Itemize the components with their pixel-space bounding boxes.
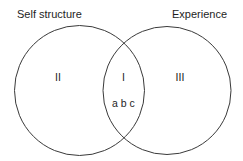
region-i-label: I [122, 71, 125, 83]
region-iii-label: III [176, 71, 185, 83]
experience-circle [103, 27, 231, 155]
overlap-items-label: a b c [112, 97, 135, 109]
self-structure-circle [15, 26, 145, 156]
region-ii-label: II [55, 71, 61, 83]
experience-label: Experience [172, 8, 227, 20]
venn-diagram: Self structure Experience II I III a b c [0, 0, 243, 161]
self-structure-label: Self structure [17, 8, 82, 20]
